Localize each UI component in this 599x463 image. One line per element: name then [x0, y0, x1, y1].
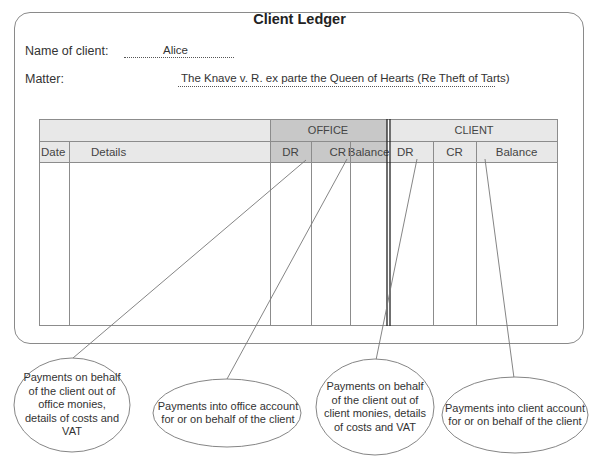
- callout-text-office-cr: Payments into office account for or on b…: [155, 393, 301, 433]
- callout-connector-office-dr: [73, 160, 306, 358]
- callout-text-client-dr: Payments on behalf of the client out of …: [323, 365, 427, 449]
- callout-connector-office-cr: [227, 159, 347, 379]
- callout-text-client-cr: Payments into client account for or on b…: [444, 395, 586, 435]
- callout-connector-client-dr: [376, 159, 417, 360]
- callout-connector-client-cr: [485, 159, 514, 378]
- callout-text-office-dr: Payments on behalf of the client out of …: [22, 363, 122, 447]
